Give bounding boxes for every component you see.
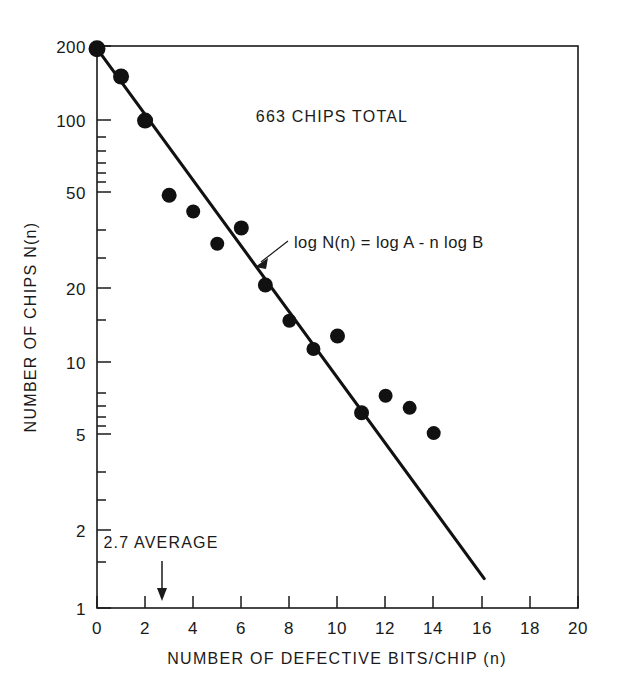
figure-container: 200 100 50 20 10 5 2 1 0 2 4 6 8 10 12 1… (0, 0, 620, 688)
data-point (306, 342, 320, 356)
x-tick-label-4: 4 (188, 619, 198, 638)
x-axis-title: NUMBER OF DEFECTIVE BITS/CHIP (n) (167, 650, 507, 667)
y-tick-label-50: 50 (66, 184, 86, 203)
y-axis-title: NUMBER OF CHIPS N(n) (22, 222, 39, 433)
x-tick-label-2: 2 (140, 619, 150, 638)
data-point (234, 220, 249, 235)
x-tick-label-16: 16 (472, 619, 492, 638)
x-tick-labels: 0 2 4 6 8 10 12 14 16 18 20 (92, 619, 588, 638)
y-tick-label-100: 100 (56, 112, 86, 131)
fit-line (97, 49, 484, 579)
data-point (379, 389, 393, 403)
data-point (186, 205, 200, 219)
fit-equation-annotation: log N(n) = log A - n log B (255, 233, 484, 269)
y-axis-major-ticks (97, 46, 111, 608)
average-annotation: 2.7 AVERAGE (103, 534, 218, 601)
x-tick-label-20: 20 (568, 619, 588, 638)
data-point (258, 278, 273, 293)
x-tick-label-12: 12 (375, 619, 395, 638)
data-point (330, 328, 345, 343)
data-point (354, 405, 369, 420)
data-point (89, 40, 106, 57)
y-tick-label-200: 200 (56, 38, 86, 57)
average-label: 2.7 AVERAGE (103, 534, 218, 551)
chart-canvas: 200 100 50 20 10 5 2 1 0 2 4 6 8 10 12 1… (0, 0, 620, 688)
x-tick-label-14: 14 (423, 619, 443, 638)
data-point (403, 401, 417, 415)
x-axis-ticks (97, 596, 578, 608)
x-tick-label-10: 10 (327, 619, 347, 638)
data-point (210, 237, 224, 251)
x-tick-label-6: 6 (236, 619, 246, 638)
x-tick-label-0: 0 (92, 619, 102, 638)
total-chips-annotation: 663 CHIPS TOTAL (256, 108, 408, 125)
y-tick-labels: 200 100 50 20 10 5 2 1 (56, 38, 86, 619)
y-tick-label-20: 20 (66, 280, 86, 299)
y-tick-label-2: 2 (76, 522, 86, 541)
data-point (162, 188, 177, 203)
y-tick-label-1: 1 (76, 600, 86, 619)
x-tick-label-8: 8 (284, 619, 294, 638)
data-point (282, 314, 296, 328)
y-tick-label-10: 10 (66, 354, 86, 373)
data-point (427, 426, 441, 440)
data-point (137, 113, 153, 129)
plot-frame (97, 46, 578, 608)
data-point (113, 69, 129, 85)
x-tick-label-18: 18 (520, 619, 540, 638)
y-axis-minor-ticks (97, 137, 106, 562)
y-tick-label-5: 5 (76, 426, 86, 445)
fit-equation-label: log N(n) = log A - n log B (294, 233, 484, 251)
